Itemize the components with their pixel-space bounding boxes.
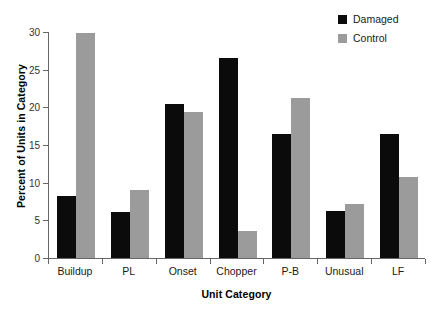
legend: Damaged Control — [338, 11, 434, 49]
legend-swatch-control-icon — [338, 34, 347, 43]
y-tick — [43, 32, 49, 33]
x-tick-label-chopper: Chopper — [216, 265, 256, 277]
x-tick — [263, 259, 264, 264]
bar-control-onset — [184, 112, 203, 258]
bar-damaged-p-b — [272, 134, 291, 258]
y-tick — [43, 183, 49, 184]
legend-swatch-damaged-icon — [338, 15, 347, 24]
x-tick — [317, 259, 318, 264]
x-tick-label-unusual: Unusual — [325, 265, 364, 277]
x-tick — [371, 259, 372, 264]
bar-control-buildup — [76, 33, 95, 258]
bar-control-unusual — [345, 204, 364, 258]
legend-item-damaged: Damaged — [338, 11, 434, 27]
x-tick — [210, 259, 211, 264]
legend-label-control: Control — [353, 32, 387, 44]
bar-damaged-onset — [165, 104, 184, 258]
legend-item-control: Control — [338, 30, 434, 46]
x-axis-line — [48, 258, 425, 259]
y-tick-label: 5 — [34, 215, 40, 226]
x-tick-label-lf: LF — [392, 265, 404, 277]
y-tick — [43, 70, 49, 71]
y-tick — [43, 107, 49, 108]
bar-damaged-chopper — [219, 58, 238, 258]
bar-control-pl — [130, 190, 149, 258]
y-tick — [43, 145, 49, 146]
x-tick-label-onset: Onset — [169, 265, 197, 277]
bar-chart: Percent of Units in Category 05101520253… — [0, 0, 446, 315]
x-tick — [156, 259, 157, 264]
y-tick-label: 25 — [29, 64, 40, 75]
y-tick-label: 0 — [34, 253, 40, 264]
y-tick-label: 15 — [29, 140, 40, 151]
legend-label-damaged: Damaged — [353, 13, 399, 25]
y-axis-label: Percent of Units in Category — [14, 16, 28, 256]
bar-damaged-lf — [380, 134, 399, 258]
y-tick-label: 30 — [29, 27, 40, 38]
x-axis-label: Unit Category — [48, 288, 425, 300]
bar-control-lf — [399, 177, 418, 258]
x-tick-label-p-b: P-B — [282, 265, 300, 277]
x-tick — [102, 259, 103, 264]
bars-layer — [49, 32, 425, 258]
x-tick — [425, 259, 426, 264]
y-tick — [43, 220, 49, 221]
bar-control-p-b — [291, 98, 310, 258]
bar-damaged-buildup — [57, 196, 76, 258]
bar-control-chopper — [238, 231, 257, 258]
plot-area: 051015202530 — [48, 32, 425, 259]
x-tick-label-pl: PL — [122, 265, 135, 277]
y-tick-label: 20 — [29, 102, 40, 113]
x-tick-label-buildup: Buildup — [57, 265, 92, 277]
bar-damaged-unusual — [326, 211, 345, 258]
bar-damaged-pl — [111, 212, 130, 258]
y-tick-label: 10 — [29, 177, 40, 188]
x-tick — [48, 259, 49, 264]
